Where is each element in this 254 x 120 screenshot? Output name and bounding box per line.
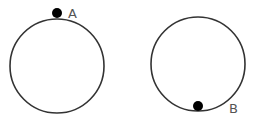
- left-circle: [10, 19, 104, 113]
- right-circle: [151, 17, 245, 111]
- point-b-dot: [193, 101, 203, 111]
- point-b-label: B: [229, 101, 238, 116]
- point-a-label: A: [68, 6, 77, 21]
- diagram-canvas: A B: [0, 0, 254, 120]
- point-a-dot: [52, 8, 62, 18]
